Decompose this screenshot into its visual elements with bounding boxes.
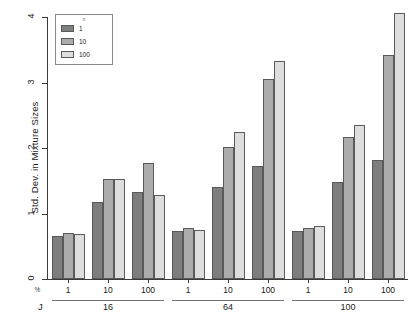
bar xyxy=(252,166,263,279)
x-axis-tick-label: 100 xyxy=(250,285,286,295)
bar xyxy=(314,226,325,279)
x-axis-group-label: 64 xyxy=(198,302,258,312)
legend-title: n xyxy=(56,17,112,22)
bar xyxy=(274,61,285,279)
bar xyxy=(143,163,154,279)
bar xyxy=(172,231,183,279)
x-axis-group-rule xyxy=(292,300,404,301)
bar xyxy=(303,228,314,279)
bar xyxy=(394,13,405,279)
bar xyxy=(354,125,365,279)
bar xyxy=(343,137,354,279)
x-axis-tick-label: 10 xyxy=(330,285,366,295)
x-axis-tick xyxy=(308,279,309,283)
x-axis-tick xyxy=(188,279,189,283)
x-axis-group-rule xyxy=(52,300,164,301)
x-axis-tick-label: 1 xyxy=(290,285,326,295)
bar xyxy=(332,182,343,279)
bar xyxy=(74,234,85,279)
bar xyxy=(52,236,63,279)
bar xyxy=(114,179,125,279)
bar-subgroup xyxy=(332,12,365,279)
bar-group-100 xyxy=(288,12,408,279)
bar-subgroup xyxy=(372,12,405,279)
legend-swatch xyxy=(61,51,74,58)
x-axis-tick-label: 1 xyxy=(170,285,206,295)
x-axis-tick-label: 10 xyxy=(210,285,246,295)
x-axis-tick xyxy=(388,279,389,283)
x-axis-group-rule xyxy=(172,300,284,301)
x-axis-tick-label: 10 xyxy=(90,285,126,295)
bar xyxy=(154,195,165,279)
bar xyxy=(292,231,303,279)
x-axis-group-label: 16 xyxy=(78,302,138,312)
legend: n 110100 xyxy=(55,14,113,65)
legend-swatch xyxy=(61,38,74,45)
y-axis-tick xyxy=(42,17,47,18)
y-axis-tick xyxy=(42,83,47,84)
legend-label: 1 xyxy=(79,25,83,32)
y-axis-tick-label: 4 xyxy=(26,5,36,27)
legend-label: 100 xyxy=(79,51,90,58)
bar xyxy=(194,230,205,279)
x-axis-tick-label: 1 xyxy=(50,285,86,295)
x-axis-tick xyxy=(108,279,109,283)
bar xyxy=(234,132,245,279)
x-axis-tick xyxy=(148,279,149,283)
bar-group-64 xyxy=(168,12,288,279)
x-axis-tick xyxy=(228,279,229,283)
bar-subgroup xyxy=(132,12,165,279)
bar xyxy=(383,55,394,279)
x-axis-tick xyxy=(348,279,349,283)
bar-subgroup xyxy=(252,12,285,279)
legend-swatch xyxy=(61,25,74,32)
x-axis-tick-label: 100 xyxy=(370,285,406,295)
bar-subgroup xyxy=(172,12,205,279)
bar xyxy=(63,233,74,280)
legend-label: 10 xyxy=(79,38,86,45)
legend-entry: 1 xyxy=(61,25,83,32)
bar xyxy=(372,160,383,279)
x-axis-group-label: 100 xyxy=(318,302,378,312)
x-axis-inner-variable: % xyxy=(26,286,50,293)
legend-entry: 100 xyxy=(61,51,90,58)
x-axis-tick xyxy=(68,279,69,283)
bar xyxy=(223,147,234,279)
chart-figure: Std. Dev. in Mixture Sizes 01234 1101001… xyxy=(0,0,414,319)
x-axis-tick xyxy=(268,279,269,283)
bar-subgroup xyxy=(212,12,245,279)
bar xyxy=(132,192,143,279)
x-axis-tick-label: 100 xyxy=(130,285,166,295)
bar xyxy=(183,228,194,279)
legend-entry: 10 xyxy=(61,38,86,45)
y-axis-tick-label: 2 xyxy=(26,136,36,158)
y-axis-tick xyxy=(42,148,47,149)
bar xyxy=(212,187,223,279)
bar xyxy=(92,202,103,279)
bar xyxy=(263,79,274,279)
y-axis-tick xyxy=(42,214,47,215)
x-axis-group-variable: J xyxy=(38,301,43,312)
bar-subgroup xyxy=(292,12,325,279)
y-axis-tick-label: 3 xyxy=(26,71,36,93)
y-axis-tick-label: 1 xyxy=(26,202,36,224)
bar xyxy=(103,179,114,279)
